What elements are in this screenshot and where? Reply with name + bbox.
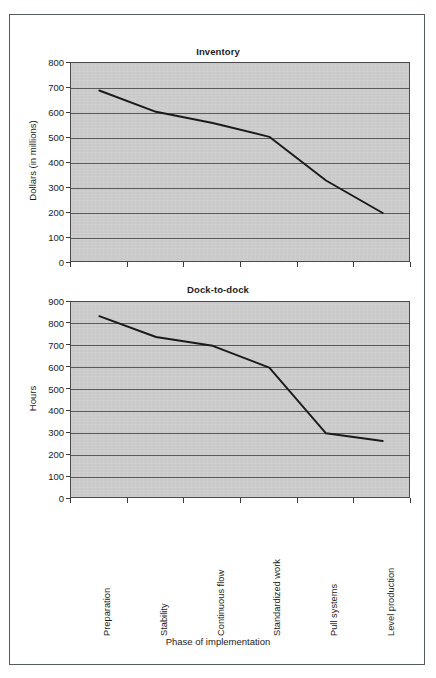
chart-panel-dock-to-dock: Dock-to-dock Hours 010020030040050060070… <box>0 284 436 664</box>
x-tick-mark <box>353 498 354 503</box>
x-category-label: Level production <box>386 568 396 636</box>
y-tick-label: 300 <box>48 427 64 438</box>
x-tick-mark <box>183 262 184 267</box>
x-tick-mark <box>70 498 71 503</box>
x-category-label: Standardized work <box>272 559 282 636</box>
y-tick-label: 500 <box>48 132 64 143</box>
figure-root: Inventory Dollars (in millions) 01002003… <box>0 0 436 678</box>
y-tick-label: 0 <box>59 257 64 268</box>
y-tick-label: 800 <box>48 317 64 328</box>
series-line-inventory <box>71 63 410 262</box>
x-category-label: Stability <box>159 603 169 636</box>
x-tick-mark <box>183 498 184 503</box>
x-category-label: Preparation <box>102 588 112 636</box>
x-tick-mark <box>410 498 411 503</box>
y-tick-label: 500 <box>48 383 64 394</box>
x-tick-mark <box>240 498 241 503</box>
plot-area-inventory <box>70 62 410 262</box>
chart-title-dock-to-dock: Dock-to-dock <box>0 284 436 295</box>
x-axis-title: Phase of implementation <box>0 636 436 647</box>
y-tick-label: 200 <box>48 449 64 460</box>
y-tick-label: 400 <box>48 157 64 168</box>
x-category-label: Continuous flow <box>216 570 226 636</box>
y-tick-label: 600 <box>48 107 64 118</box>
x-category-label: Pull systems <box>329 584 339 636</box>
y-tick-label: 800 <box>48 57 64 68</box>
x-tick-mark <box>353 262 354 267</box>
x-tick-mark <box>297 498 298 503</box>
plot-area-dock-to-dock <box>70 301 410 498</box>
x-tick-mark <box>240 262 241 267</box>
y-tick-label: 700 <box>48 339 64 350</box>
y-tick-label: 0 <box>59 493 64 504</box>
x-tick-mark <box>297 262 298 267</box>
series-line-dock-to-dock <box>71 302 410 498</box>
chart-panel-inventory: Inventory Dollars (in millions) 01002003… <box>0 46 436 286</box>
y-tick-label: 200 <box>48 207 64 218</box>
y-tick-label: 900 <box>48 296 64 307</box>
y-tick-label: 400 <box>48 405 64 416</box>
y-tick-label: 100 <box>48 232 64 243</box>
y-axis-title-inventory: Dollars (in millions) <box>27 81 38 241</box>
x-tick-mark <box>127 262 128 267</box>
y-tick-label: 600 <box>48 361 64 372</box>
y-tick-label: 300 <box>48 182 64 193</box>
y-tick-label: 100 <box>48 471 64 482</box>
y-tick-label: 700 <box>48 82 64 93</box>
x-tick-mark <box>410 262 411 267</box>
y-axis-title-dock-to-dock: Hours <box>27 318 38 478</box>
x-tick-mark <box>70 262 71 267</box>
x-tick-mark <box>127 498 128 503</box>
chart-title-inventory: Inventory <box>0 46 436 57</box>
